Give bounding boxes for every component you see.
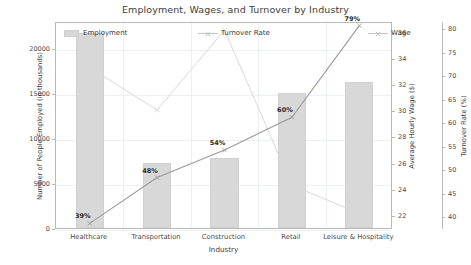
y-axis-right-wage-tick — [392, 190, 395, 191]
y-axis-right-turnover-tick — [442, 194, 445, 195]
legend-item-wage: Wage — [368, 29, 411, 37]
legend-line-marker-icon — [198, 30, 218, 36]
legend-item-employment: Employment — [64, 29, 127, 37]
x-axis-tick-label: Healthcare — [70, 233, 107, 241]
y-axis-right-turnover-tick — [442, 217, 445, 218]
x-axis-tick-label: Retail — [281, 233, 300, 241]
y-axis-right-wage-tick — [392, 59, 395, 60]
y-axis-right-turnover-tick — [442, 76, 445, 77]
legend-line-marker-icon — [368, 30, 388, 36]
legend-item-turnover-rate: Turnover Rate — [198, 29, 270, 37]
y-axis-right-wage-tick-label: 24 — [398, 186, 406, 194]
y-axis-right-turnover-tick — [442, 100, 445, 101]
chart-figure: Employment, Wages, and Turnover by Indus… — [0, 0, 471, 265]
y-axis-left-tick — [52, 229, 55, 230]
wage-line-marker — [357, 23, 361, 27]
y-axis-left-tick-label: 15000 — [10, 90, 50, 98]
wage-line-marker — [155, 175, 159, 179]
y-axis-right-wage-tick — [392, 111, 395, 112]
y-axis-right-turnover-tick — [442, 147, 445, 148]
turnover-rate-line — [90, 30, 360, 213]
wage-line-marker — [88, 221, 92, 225]
y-axis-left-tick — [52, 139, 55, 140]
wage-line-marker — [290, 115, 294, 119]
y-axis-right-wage-title: Average Hourly Wage ($) — [408, 26, 416, 226]
legend-label: Employment — [83, 29, 127, 37]
y-axis-right-turnover-tick-label: 70 — [448, 72, 456, 80]
y-axis-left-tick-label: 10000 — [10, 135, 50, 143]
turnover-rate-line-marker — [290, 183, 294, 187]
turnover-rate-line-marker — [357, 211, 361, 215]
y-axis-left-title: Number of People Employed (in thousands) — [36, 26, 44, 226]
wage-point-label: 39% — [75, 212, 91, 220]
y-axis-right-wage-tick-label: 26 — [398, 160, 406, 168]
wage-point-label: 54% — [210, 139, 226, 147]
y-axis-right-wage-tick-label: 30 — [398, 107, 406, 115]
y-axis-right-wage-tick — [392, 137, 395, 138]
legend-label: Turnover Rate — [221, 29, 270, 37]
y-axis-left-tick — [52, 184, 55, 185]
turnover-rate-line-marker — [155, 108, 159, 112]
turnover-rate-line-marker — [88, 66, 92, 70]
y-axis-right-wage-tick — [392, 164, 395, 165]
y-axis-right-turnover-tick-label: 60 — [448, 119, 456, 127]
wage-point-label: 79% — [345, 15, 361, 23]
y-axis-right-turnover-tick-label: 55 — [448, 143, 456, 151]
y-axis-right-turnover-tick — [442, 29, 445, 30]
y-axis-right-turnover-tick — [442, 53, 445, 54]
y-axis-right-turnover-title: Turnover Rate (%) — [460, 26, 468, 226]
wage-point-label: 48% — [142, 167, 158, 175]
y-axis-right-turnover-tick-label: 50 — [448, 166, 456, 174]
line-series-layer — [56, 23, 393, 230]
gridline-horizontal — [56, 230, 391, 231]
chart-title: Employment, Wages, and Turnover by Indus… — [0, 4, 471, 15]
y-axis-right-turnover-tick — [442, 123, 445, 124]
y-axis-left-tick-label: 5000 — [10, 180, 50, 188]
y-axis-right-turnover-tick-label: 65 — [448, 96, 456, 104]
x-axis-tick-label: Construction — [202, 233, 245, 241]
y-axis-right-wage-tick — [392, 216, 395, 217]
x-axis-tick-label: Leisure & Hospitality — [323, 233, 393, 241]
y-axis-left-tick — [52, 94, 55, 95]
y-axis-right-wage-tick-label: 32 — [398, 81, 406, 89]
legend-bar-swatch-icon — [64, 30, 79, 37]
y-axis-right-wage-tick-label: 22 — [398, 212, 406, 220]
y-axis-right-turnover-tick-label: 75 — [448, 49, 456, 57]
wage-point-label: 60% — [277, 106, 293, 114]
x-axis-title: Industry — [55, 245, 392, 254]
legend-label: Wage — [391, 29, 411, 37]
wage-line — [90, 26, 360, 224]
plot-area: 39%48%54%60%79% — [55, 22, 392, 229]
y-axis-left-tick — [52, 49, 55, 50]
y-axis-left-tick-label: 0 — [10, 225, 50, 233]
y-axis-right-turnover-tick-label: 40 — [448, 213, 456, 221]
y-axis-right-wage-tick — [392, 85, 395, 86]
y-axis-right-turnover-tick-label: 45 — [448, 190, 456, 198]
y-axis-right-turnover-tick — [442, 170, 445, 171]
y-axis-right-turnover-tick-label: 80 — [448, 25, 456, 33]
wage-line-marker — [222, 148, 226, 152]
x-axis-tick-label: Transportation — [132, 233, 181, 241]
y-axis-right-wage-tick-label: 28 — [398, 133, 406, 141]
y-axis-right-wage-tick-label: 34 — [398, 55, 406, 63]
y-axis-left-tick-label: 20000 — [10, 45, 50, 53]
